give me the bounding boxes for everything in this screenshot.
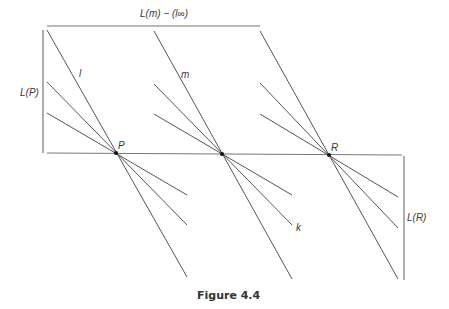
left-bracket-label: L(P) — [20, 87, 39, 98]
figure-caption: Figure 4.4 — [197, 289, 261, 302]
middle-point-marker — [220, 152, 224, 156]
line-l-label: l — [79, 68, 82, 79]
point-P-marker — [114, 151, 118, 155]
pencil-middle — [154, 31, 292, 279]
top-bracket-label: L(m) − (l∞) — [140, 8, 188, 19]
figure-4-4: L(m) − (l∞) L(P) L(R) l P m k R Figure 4… — [0, 0, 449, 309]
point-R-label: R — [331, 142, 338, 153]
horizontal-line — [47, 153, 402, 155]
point-P-label: P — [118, 140, 125, 151]
line-m-label: m — [181, 69, 189, 80]
right-bracket-label: L(R) — [407, 212, 426, 223]
point-R-marker — [327, 153, 331, 157]
line-k-label: k — [296, 222, 302, 233]
diagram-canvas: L(m) − (l∞) L(P) L(R) l P m k R Figure 4… — [0, 0, 449, 309]
